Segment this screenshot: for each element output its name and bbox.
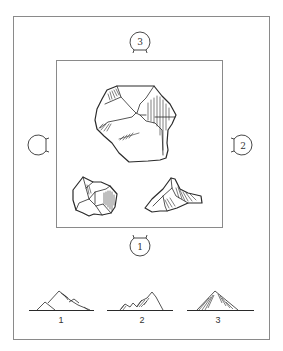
marker-label-right: 2 xyxy=(240,141,246,151)
profile-label-2: 2 xyxy=(139,315,144,325)
view-marker-top: 3 xyxy=(130,32,150,53)
profile-1: 1 xyxy=(29,291,94,325)
profile-label-1: 1 xyxy=(58,315,63,325)
profile-3: 3 xyxy=(187,291,254,325)
marker-label-top: 3 xyxy=(137,37,143,47)
profile-label-3: 3 xyxy=(215,315,220,325)
marker-circle-icon xyxy=(28,135,46,155)
marker-notch-icon xyxy=(46,138,49,152)
large-rock-drawing xyxy=(95,86,176,162)
view-marker-right: 2 xyxy=(231,135,252,155)
diagram-canvas: 3 2 1 xyxy=(0,0,283,351)
rock-diagram: 3 2 1 xyxy=(0,0,283,351)
marker-notch-icon xyxy=(231,138,234,152)
marker-notch-icon xyxy=(133,235,147,238)
view-marker-bottom: 1 xyxy=(130,235,150,256)
small-rock-left-drawing xyxy=(73,177,117,216)
profile-2: 2 xyxy=(107,292,173,325)
outer-frame xyxy=(14,17,270,340)
marker-notch-icon xyxy=(133,50,147,53)
marker-label-bottom: 1 xyxy=(137,242,143,252)
view-marker-left xyxy=(28,135,49,155)
small-rock-right-drawing xyxy=(145,178,202,212)
